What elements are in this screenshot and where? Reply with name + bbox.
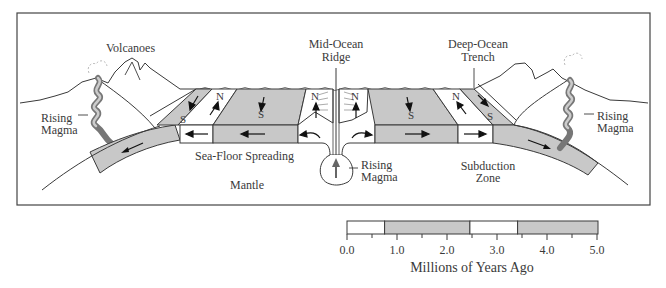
right-eruption-icon <box>564 53 582 65</box>
polarity-s: S <box>408 109 414 121</box>
polarity-n: N <box>216 90 224 102</box>
right-volcano-slope <box>514 80 568 125</box>
label-sea-floor-spreading: Sea-Floor Spreading <box>195 149 294 163</box>
scale-tick-label: 2.0 <box>440 243 455 257</box>
scale-tick-label: 5.0 <box>590 243 605 257</box>
plate-tectonics-diagram: S N S N N S N S Volcanoes Mid-Ocean Ridg… <box>0 0 666 288</box>
polarity-n: N <box>351 90 359 102</box>
volcanoes-pointer <box>125 62 140 80</box>
polarity-s: S <box>180 113 186 125</box>
polarity-n: N <box>311 90 319 102</box>
magnetic-time-scale: 0.0 1.0 2.0 3.0 4.0 5.0 Millions of Year… <box>340 221 605 275</box>
scale-tick-label: 1.0 <box>390 243 405 257</box>
label-mid-ocean-ridge-line2: Ridge <box>322 50 351 64</box>
label-subduction-zone-line2: Zone <box>476 171 501 185</box>
label-rising-magma-left-line2: Magma <box>41 123 78 137</box>
scale-segment-reversed <box>518 221 598 234</box>
scale-ticks <box>347 234 597 240</box>
label-volcanoes: Volcanoes <box>106 41 155 55</box>
polarity-n: N <box>452 90 460 102</box>
scale-segment-reversed <box>385 221 470 234</box>
left-eruption-icon <box>88 61 107 73</box>
scale-tick-label: 0.0 <box>340 243 355 257</box>
left-volcano-slope <box>96 78 155 128</box>
scale-tick-label: 4.0 <box>540 243 555 257</box>
scale-tick-label: 3.0 <box>490 243 505 257</box>
label-deep-ocean-trench-line2: Trench <box>461 50 495 64</box>
polarity-s: S <box>258 108 264 120</box>
label-mid-ocean-ridge: Mid-Ocean <box>309 37 364 51</box>
scale-segment-normal <box>347 221 385 234</box>
label-rising-magma-center-line2: Magma <box>361 170 398 184</box>
left-continent-outline <box>20 58 210 103</box>
polarity-s: S <box>487 110 493 122</box>
label-mantle: Mantle <box>230 178 264 192</box>
right-continent-outline <box>474 63 648 103</box>
scale-segment-normal <box>470 221 518 234</box>
scale-title: Millions of Years Ago <box>410 260 534 275</box>
label-rising-magma-right-line2: Magma <box>597 121 634 135</box>
label-deep-ocean-trench: Deep-Ocean <box>448 37 508 51</box>
